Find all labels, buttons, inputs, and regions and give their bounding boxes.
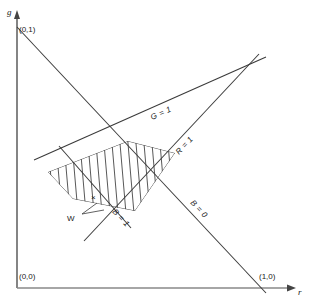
x-axis-arrow-icon bbox=[287, 285, 296, 292]
w-marker-group: × W bbox=[67, 193, 104, 223]
label-line-r-equals-1: R = 1 bbox=[174, 135, 195, 157]
label-line-b-equals-0: B = 0 bbox=[189, 198, 210, 220]
diagram-lines bbox=[17, 27, 266, 293]
axis-group bbox=[14, 10, 296, 292]
point-marker-icon: × bbox=[91, 193, 96, 202]
label-point-0-1: (0,1) bbox=[19, 25, 36, 34]
region-hatching bbox=[46, 120, 175, 225]
y-axis-arrow-icon bbox=[14, 10, 20, 19]
gamut-triangle-figure: × W (0,1) (0,0) (1,0) g r G = 1 R = 1 B … bbox=[0, 0, 312, 298]
label-point-1-0: (1,0) bbox=[259, 272, 276, 281]
line-b-equals-0 bbox=[17, 27, 266, 293]
y-axis-label: g bbox=[7, 7, 12, 17]
line-g-equals-1 bbox=[34, 57, 266, 160]
label-point-0-0: (0,0) bbox=[19, 272, 36, 281]
w-label: W bbox=[67, 214, 75, 223]
x-axis-label: r bbox=[298, 287, 302, 297]
